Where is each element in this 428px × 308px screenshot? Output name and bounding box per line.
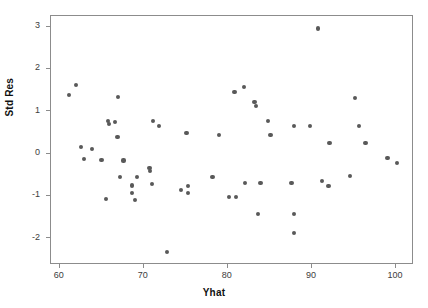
y-axis-tick-label: 3 xyxy=(35,21,40,30)
y-axis-tick xyxy=(46,26,50,27)
x-axis-tick xyxy=(59,264,60,268)
x-axis-tick-label: 80 xyxy=(212,271,242,280)
x-axis-tick xyxy=(143,264,144,268)
x-axis-tick-label: 100 xyxy=(380,271,410,280)
x-axis-tick-label: 70 xyxy=(128,271,158,280)
y-axis-tick-label: 1 xyxy=(35,106,40,115)
y-axis-tick xyxy=(46,68,50,69)
x-axis-tick xyxy=(227,264,228,268)
y-axis-label: Std Res xyxy=(4,103,15,117)
scatter-plot-figure: -2-1012360708090100 Std Res Yhat xyxy=(0,0,428,308)
x-axis-tick-label: 60 xyxy=(44,271,74,280)
x-axis-tick-label: 90 xyxy=(296,271,326,280)
y-axis-tick-label: 2 xyxy=(35,63,40,72)
plot-area-frame xyxy=(50,15,413,264)
y-axis-tick xyxy=(46,110,50,111)
y-axis-tick-label: -2 xyxy=(32,233,40,242)
y-axis-tick-label: -1 xyxy=(32,190,40,199)
x-axis-label: Yhat xyxy=(0,287,428,298)
y-axis-tick xyxy=(46,195,50,196)
y-axis-tick xyxy=(46,153,50,154)
y-axis-tick-label: 0 xyxy=(35,148,40,157)
y-axis-tick xyxy=(46,237,50,238)
x-axis-tick xyxy=(311,264,312,268)
x-axis-tick xyxy=(395,264,396,268)
